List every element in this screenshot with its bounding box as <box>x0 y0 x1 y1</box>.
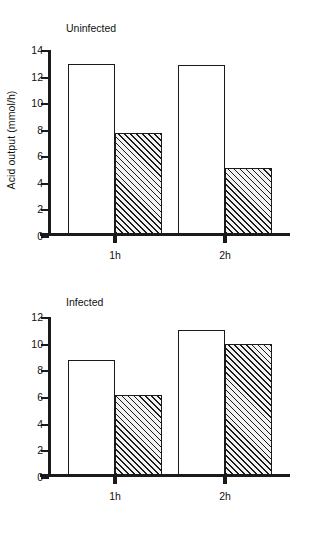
y-tick-label: 4 <box>37 178 43 189</box>
y-tick-label: 10 <box>31 98 43 109</box>
bar-infected-2h-open <box>178 330 225 475</box>
x-axis-label-1h: 1h <box>109 249 121 261</box>
y-axis-label: Acid output (mmol/h) <box>5 91 17 190</box>
bar-infected-2h-hatched <box>225 344 272 475</box>
x-axis-label-2h: 2h <box>219 249 231 261</box>
y-tick-label: 10 <box>31 338 43 349</box>
panel-title-uninfected: Uninfected <box>66 22 116 34</box>
y-tick-label: 12 <box>31 312 43 323</box>
bar-uninfected-1h-open <box>68 64 115 234</box>
y-axis-label-container: Acid output (mmol/h) <box>2 45 20 235</box>
x-tick-mark-1h <box>113 476 117 484</box>
y-tick-label: 4 <box>37 418 43 429</box>
y-tick-label: 8 <box>37 124 43 135</box>
y-tick-label: 2 <box>37 204 43 215</box>
y-tick-label: 14 <box>31 45 43 56</box>
chart-panel-infected: Infected 12 10 8 6 4 2 0 <box>0 270 315 539</box>
y-tick-label: 8 <box>37 365 43 376</box>
panel-title-infected: Infected <box>66 296 103 308</box>
plot-area-infected: 12 10 8 6 4 2 0 <box>48 317 290 477</box>
y-tick-label: 12 <box>31 71 43 82</box>
plot-area-uninfected: 14 12 10 8 6 4 2 0 <box>48 50 290 236</box>
y-tick-label: 0 <box>37 231 43 242</box>
bar-infected-1h-hatched <box>115 395 162 475</box>
y-tick-label: 6 <box>37 392 43 403</box>
y-tick-label: 2 <box>37 445 43 456</box>
x-tick-mark-1h <box>113 235 117 243</box>
x-tick-mark-2h <box>223 235 227 243</box>
chart-panel-uninfected: Acid output (mmol/h) Uninfected 14 12 10… <box>0 0 315 270</box>
bar-infected-1h-open <box>68 360 115 475</box>
x-axis-label-2h: 2h <box>219 490 231 502</box>
y-tick-label: 0 <box>37 472 43 483</box>
bar-uninfected-2h-hatched <box>225 168 272 234</box>
x-tick-mark-2h <box>223 476 227 484</box>
y-tick-label: 6 <box>37 151 43 162</box>
bar-uninfected-2h-open <box>178 65 225 234</box>
x-axis-label-1h: 1h <box>109 490 121 502</box>
bar-uninfected-1h-hatched <box>115 133 162 234</box>
